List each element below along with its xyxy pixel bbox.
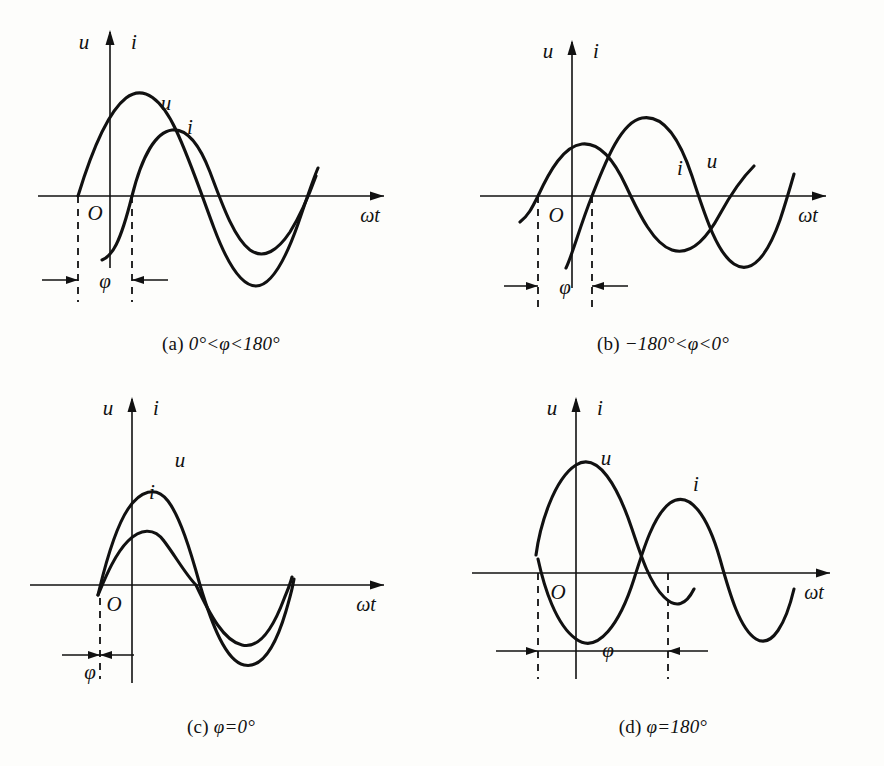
label-i-curve-d: i xyxy=(693,472,699,496)
panel-a-caption: (a) 0°<φ<180° xyxy=(0,333,442,355)
label-omega-t-d: ωt xyxy=(804,581,824,603)
x-axis-a xyxy=(38,192,384,201)
x-axis-c xyxy=(30,581,384,590)
panel-c-caption: (c) φ=0° xyxy=(0,716,442,738)
label-u-curve-d: u xyxy=(601,446,612,470)
panel-a-caption-prefix: (a) xyxy=(162,333,184,354)
label-i-curve-a: i xyxy=(187,115,193,139)
label-i-curve-c: i xyxy=(149,480,155,504)
label-i-curve-b: i xyxy=(677,156,683,180)
phase-diagram-figure: u i u i O ωt φ (a) 0°<φ<180° xyxy=(0,0,884,766)
label-u-axis-b: u xyxy=(543,39,554,63)
label-phase-c: φ xyxy=(84,660,96,684)
panel-d-caption-expression: φ=180° xyxy=(647,716,708,737)
curve-c-u xyxy=(98,492,294,666)
label-phase-d: φ xyxy=(602,638,614,662)
label-origin-a: O xyxy=(87,201,102,225)
label-origin-b: O xyxy=(548,203,563,227)
panel-b-caption-expression: −180°<φ<0° xyxy=(625,333,729,354)
panel-c-caption-expression: φ=0° xyxy=(214,716,255,737)
panel-d-caption-prefix: (d) xyxy=(619,716,642,737)
label-u-axis-c: u xyxy=(103,396,114,420)
curve-u-a xyxy=(78,93,318,286)
curve-b-u xyxy=(520,144,754,251)
label-i-axis-b: i xyxy=(593,39,599,63)
label-i-axis-a: i xyxy=(131,30,137,54)
panel-a-plot: u i u i O ωt φ xyxy=(0,0,442,330)
x-axis-b xyxy=(480,192,826,201)
label-u-axis-d: u xyxy=(547,396,558,420)
label-u-curve-c: u xyxy=(175,448,186,472)
panel-c-plot: u i u i O ωt φ xyxy=(0,383,442,713)
label-phase-a: φ xyxy=(99,269,111,293)
panel-b-caption: (b) −180°<φ<0° xyxy=(442,333,884,355)
label-origin-d: O xyxy=(550,580,565,604)
panel-d-plot: u i u i O ωt φ xyxy=(442,383,884,713)
label-u-curve-a: u xyxy=(161,91,172,115)
panel-d: u i u i O ωt φ (d) φ=180° xyxy=(442,383,884,766)
curve-c-i xyxy=(98,531,292,645)
panel-b-plot: u i i u O ωt φ xyxy=(442,0,884,330)
label-omega-t-b: ωt xyxy=(798,204,818,226)
curve-b-i xyxy=(566,118,794,268)
panel-a: u i u i O ωt φ (a) 0°<φ<180° xyxy=(0,0,442,383)
panel-b: u i i u O ωt φ (b) −180°<φ<0° xyxy=(442,0,884,383)
panel-d-caption: (d) φ=180° xyxy=(442,716,884,738)
label-u-axis-a: u xyxy=(79,30,90,54)
label-i-axis-d: i xyxy=(597,396,603,420)
label-i-axis-c: i xyxy=(153,396,159,420)
panel-a-caption-expression: 0°<φ<180° xyxy=(189,333,280,354)
label-origin-c: O xyxy=(106,592,121,616)
curve-i-a xyxy=(102,130,316,260)
panel-c-caption-prefix: (c) xyxy=(187,716,209,737)
label-u-curve-b: u xyxy=(707,149,718,173)
label-phase-b: φ xyxy=(559,275,571,299)
panel-c: u i u i O ωt φ (c) φ=0° xyxy=(0,383,442,766)
y-axis-a xyxy=(106,30,115,268)
panel-b-caption-prefix: (b) xyxy=(597,333,620,354)
label-omega-t-a: ωt xyxy=(360,204,380,226)
label-omega-t-c: ωt xyxy=(356,593,376,615)
phase-measure-c xyxy=(62,651,134,659)
